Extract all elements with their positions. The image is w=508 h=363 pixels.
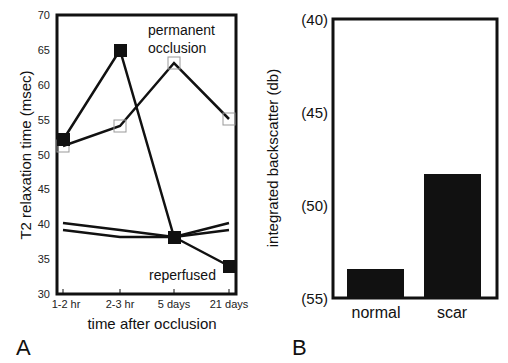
y-tick-45: (45) [301,104,328,121]
panel-b-y-ticks: (40) (45) (50) (55) [301,11,328,307]
x-tick-2-3hr: 2-3 hr [106,298,135,310]
y-tick-30: 30 [38,288,50,300]
y-tick-45: 45 [38,183,50,195]
y-tick-65: 65 [38,44,50,56]
y-tick-60: 60 [38,79,50,91]
figure: 70 65 60 55 50 45 40 35 30 1-2 hr 2-3 hr… [0,0,508,363]
y-tick-55: (55) [301,290,328,307]
bar-normal [347,269,404,298]
panel-a-y-ticks: 70 65 60 55 50 45 40 35 30 [38,9,50,300]
panel-a-chart: 70 65 60 55 50 45 40 35 30 1-2 hr 2-3 hr… [16,9,249,360]
panel-a-x-ticks: 1-2 hr 2-3 hr 5 days 21 days [52,289,249,310]
annotation-reperfused: reperfused [149,267,216,283]
open-square-series-line [63,63,229,146]
panel-a-frame [57,15,236,294]
y-tick-40: (40) [301,11,328,28]
reperfused-line-1 [63,223,229,237]
panel-a-x-axis-label: time after occlusion [87,315,216,332]
y-tick-70: 70 [38,9,50,21]
panel-b-chart: (40) (45) (50) (55) normal scar integrat… [264,11,497,360]
annotation-permanent: permanent [148,22,215,38]
y-tick-40: 40 [38,218,50,230]
y-tick-35: 35 [38,253,50,265]
y-tick-50: (50) [301,197,328,214]
category-scar: scar [437,304,468,321]
y-tick-55: 55 [38,114,50,126]
filled-square-markers [57,44,236,273]
panel-b-y-axis-label: integrated backscatter (db) [264,69,281,247]
y-tick-50: 50 [38,149,50,161]
x-tick-5days: 5 days [158,298,191,310]
panel-letter-b: B [292,335,307,360]
panel-letter-a: A [16,335,31,360]
annotation-occlusion: occlusion [148,40,206,56]
x-tick-21days: 21 days [210,298,249,310]
panel-a-y-axis-label: T2 relaxation time (msec) [17,70,34,239]
x-tick-1-2hr: 1-2 hr [52,298,81,310]
category-normal: normal [352,304,401,321]
bar-scar [424,174,481,298]
